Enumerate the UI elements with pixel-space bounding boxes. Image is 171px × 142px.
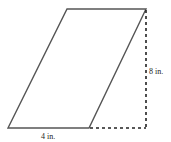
base-label: 4 in. bbox=[41, 132, 55, 141]
parallelogram-shape bbox=[8, 9, 146, 128]
parallelogram-diagram: 8 in. 4 in. bbox=[0, 0, 171, 142]
height-label: 8 in. bbox=[149, 67, 163, 76]
